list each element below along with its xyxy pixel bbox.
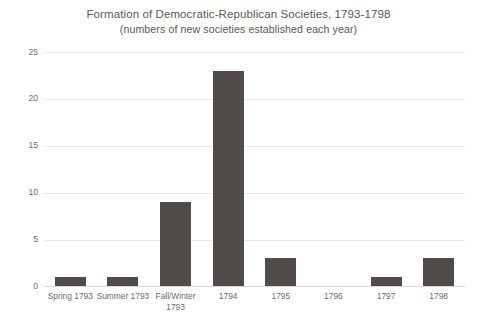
bar[interactable] [55, 277, 86, 286]
y-tick-label: 25 [4, 48, 38, 56]
bar[interactable] [423, 258, 454, 286]
x-tick-label-line: 1794 [219, 291, 238, 301]
x-tick-label-line: 1798 [429, 291, 448, 301]
bar[interactable] [160, 202, 191, 286]
x-tick-label-line: Fall/Winter [156, 291, 196, 301]
x-tick-label-line: 1797 [377, 291, 396, 301]
y-tick-label: 20 [4, 94, 38, 102]
y-tick-label: 15 [4, 141, 38, 149]
bar[interactable] [371, 277, 402, 286]
x-tick-label: 1797 [360, 291, 413, 302]
x-tick-label: 1795 [255, 291, 308, 302]
bar-chart-figure: Formation of Democratic-Republican Socie… [0, 0, 477, 328]
x-tick-label-line: 1793 [149, 302, 202, 313]
x-tick-label: Spring 1793 [44, 291, 97, 302]
y-tick-label: 0 [4, 282, 38, 290]
bar[interactable] [265, 258, 296, 286]
x-tick-label-line: Summer 1793 [97, 291, 150, 301]
y-tick-label: 10 [4, 188, 38, 196]
x-tick-label-line: 1795 [271, 291, 290, 301]
x-tick-label: 1794 [202, 291, 255, 302]
x-tick-label: 1798 [412, 291, 465, 302]
x-axis: Spring 1793Summer 1793Fall/Winter1793179… [44, 291, 465, 327]
x-tick-label: 1796 [307, 291, 360, 302]
y-axis: 0510152025 [0, 0, 38, 328]
bars-layer [44, 0, 465, 328]
y-tick-label: 5 [4, 235, 38, 243]
x-tick-label-line: Spring 1793 [48, 291, 93, 301]
x-tick-label-line: 1796 [324, 291, 343, 301]
x-tick-label: Fall/Winter1793 [149, 291, 202, 313]
x-tick-label: Summer 1793 [97, 291, 150, 302]
bar[interactable] [213, 71, 244, 287]
bar[interactable] [107, 277, 138, 286]
